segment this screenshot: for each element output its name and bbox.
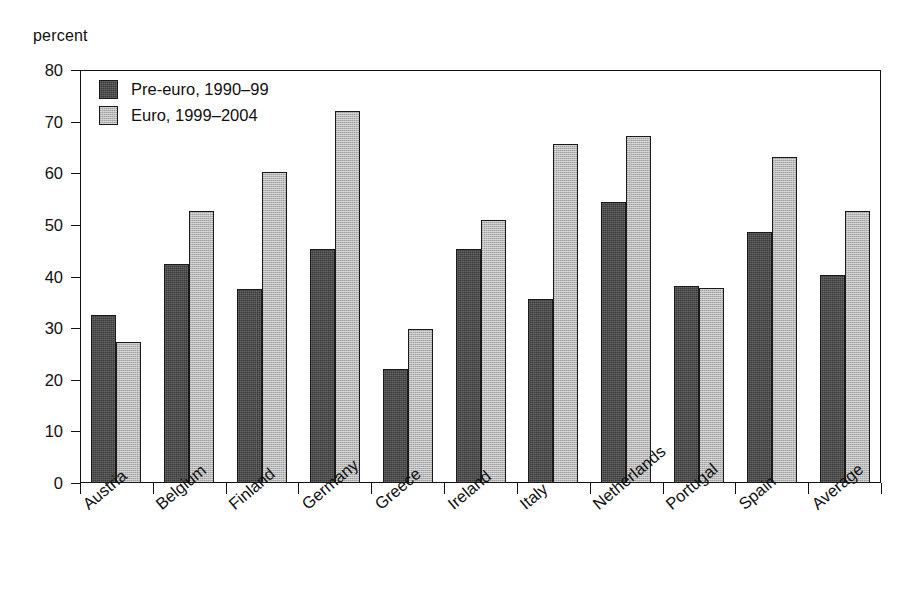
y-axis-tick (71, 173, 80, 174)
bar-spain-pre-euro (747, 232, 772, 483)
bar-netherlands-euro (626, 136, 651, 483)
x-axis-tick (80, 483, 81, 494)
bar-ireland-pre-euro (456, 249, 481, 483)
bar-ireland-euro (481, 220, 506, 483)
bar-greece-euro (408, 329, 433, 483)
bar-netherlands-pre-euro (601, 202, 626, 483)
bar-italy-pre-euro (528, 299, 553, 483)
plot-area (80, 70, 881, 483)
bar-finland-pre-euro (237, 289, 262, 483)
y-axis-tick (71, 483, 80, 484)
bar-chart: percent Pre-euro, 1990–99 Euro, 1999–200… (0, 0, 918, 607)
bar-italy-euro (553, 144, 578, 483)
x-axis-tick (808, 483, 809, 494)
bar-belgium-pre-euro (164, 264, 189, 483)
bar-finland-euro (262, 172, 287, 483)
y-axis-tick-label: 30 (33, 319, 63, 338)
legend-swatch-icon-euro (99, 106, 118, 125)
bar-average-pre-euro (820, 275, 845, 483)
bar-belgium-euro (189, 211, 214, 483)
legend-swatch-icon-pre-euro (99, 80, 118, 99)
y-axis-tick (71, 431, 80, 432)
legend-label-pre-euro: Pre-euro, 1990–99 (131, 80, 269, 99)
bar-germany-euro (335, 111, 360, 483)
y-axis-title: percent (33, 27, 88, 45)
x-axis-tick (226, 483, 227, 494)
x-axis-tick (881, 483, 882, 494)
legend-item-euro: Euro, 1999–2004 (99, 106, 269, 125)
x-axis-tick (663, 483, 664, 494)
y-axis-tick-label: 20 (33, 370, 63, 389)
chart-legend: Pre-euro, 1990–99 Euro, 1999–2004 (99, 80, 269, 125)
bar-average-euro (845, 211, 870, 483)
x-axis-tick (298, 483, 299, 494)
x-axis-tick (517, 483, 518, 494)
bar-austria-pre-euro (91, 315, 116, 483)
y-axis-tick-label: 10 (33, 422, 63, 441)
legend-label-euro: Euro, 1999–2004 (131, 106, 258, 125)
y-axis-tick-label: 50 (33, 215, 63, 234)
y-axis-tick-label: 70 (33, 112, 63, 131)
y-axis-tick (71, 225, 80, 226)
bar-austria-euro (116, 342, 141, 483)
x-axis-tick (153, 483, 154, 494)
legend-item-pre-euro: Pre-euro, 1990–99 (99, 80, 269, 99)
bar-greece-pre-euro (383, 369, 408, 483)
x-axis-label-italy: Italy (516, 480, 551, 514)
x-axis-tick (371, 483, 372, 494)
y-axis-tick-label: 60 (33, 164, 63, 183)
y-axis-tick-label: 80 (33, 61, 63, 80)
x-axis-tick (444, 483, 445, 494)
x-axis-tick (590, 483, 591, 494)
x-axis-tick (735, 483, 736, 494)
bar-portugal-pre-euro (674, 286, 699, 483)
bar-portugal-euro (699, 288, 724, 483)
y-axis-tick-label: 0 (33, 474, 63, 493)
bar-germany-pre-euro (310, 249, 335, 483)
y-axis-tick (71, 380, 80, 381)
y-axis-tick (71, 122, 80, 123)
y-axis-tick (71, 70, 80, 71)
y-axis-tick (71, 328, 80, 329)
bar-spain-euro (772, 157, 797, 483)
y-axis-tick (71, 277, 80, 278)
y-axis-tick-label: 40 (33, 267, 63, 286)
